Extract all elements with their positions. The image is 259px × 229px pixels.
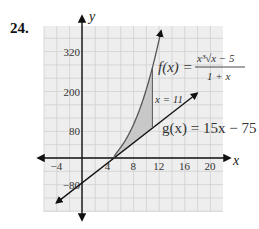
y-tick-label: 80 [69,125,81,137]
x-tick-label: 12 [153,160,164,172]
f-equation-numerator: x³√x − 5 [196,52,235,64]
chart: 24. −44812162032020080−80 x y x = 11 f(x… [0,0,259,229]
f-equation-denominator: 1 + x [207,70,230,82]
y-axis-label: y [87,9,96,24]
x-equals-11-label: x = 11 [154,93,183,105]
g-equation: g(x) = 15x − 75 [162,120,256,137]
y-tick-label: 320 [64,46,81,58]
f-equation-lhs: f(x) = [158,59,193,76]
x-tick-label: 8 [130,160,136,172]
problem-number: 24. [10,20,29,36]
y-tick-label: −80 [63,179,81,191]
x-tick-label: 16 [179,160,191,172]
y-tick-label: 200 [64,86,81,98]
x-tick-label: −4 [51,160,63,172]
x-tick-label: 20 [205,160,217,172]
x-axis-label: x [232,153,240,168]
